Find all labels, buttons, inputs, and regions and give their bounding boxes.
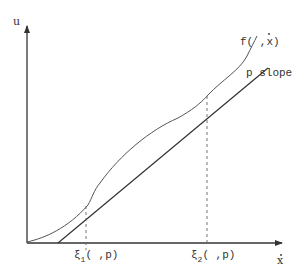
tangent-point-2-label: ξ2( ,p) (191, 249, 235, 264)
tangent-point-1-label: ξ1( ,p) (74, 249, 118, 264)
y-axis-label: u (13, 15, 20, 28)
diagram-canvas: u x f( ,x) p slope ξ1( ,p) ξ2( ,p) (0, 0, 306, 277)
line-label: p slope (246, 67, 292, 79)
tangent-line (58, 68, 268, 243)
curve-label-dot-accent (268, 33, 270, 35)
x-axis-label: x (277, 254, 284, 267)
x-axis-label-dot-accent (280, 254, 282, 256)
curve-label: f( ,x) (240, 36, 280, 48)
curve-f (27, 36, 257, 242)
